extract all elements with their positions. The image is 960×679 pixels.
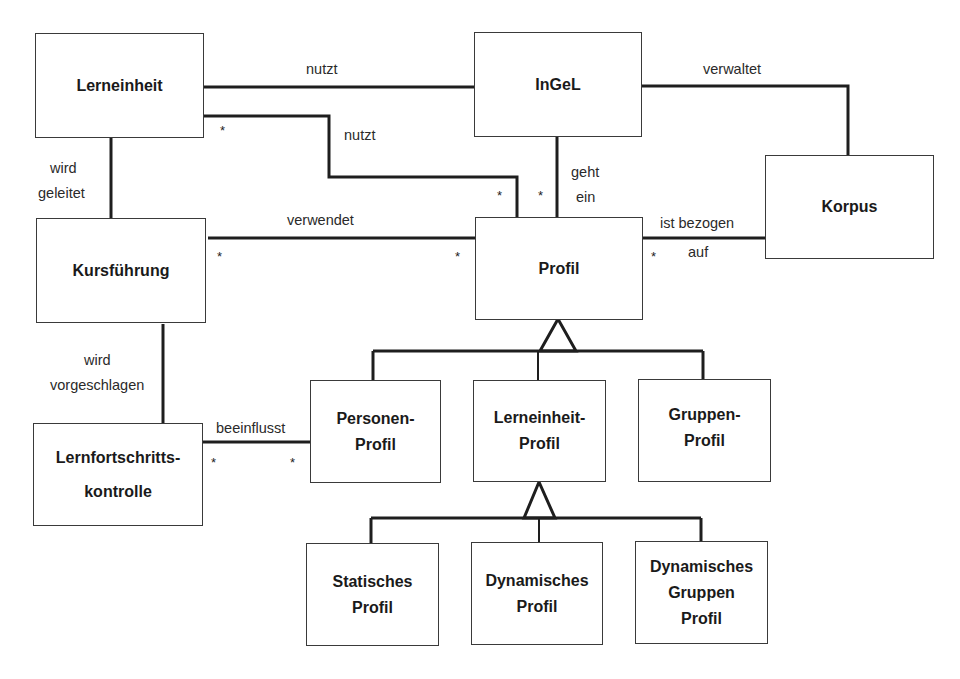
multiplicity-kursfuehrung-profil-target: * [455,250,460,263]
class-name-line: Gruppen- [669,402,741,428]
label-profil-korpus-line1: ist bezogen [660,211,734,236]
multiplicity-profil-korpus-source: * [651,250,656,263]
multiplicity-ingel-profil-target: * [538,189,543,202]
class-name: Lerneinheit [76,73,162,99]
class-name-line: Lerneinheit- [494,405,586,431]
multiplicity-lernfortschrittskontrolle-personen-profil-target: * [290,456,295,469]
label-ingel-profil-line1: geht [571,160,599,185]
label-kursfuehrung-profil: verwendet [287,208,354,233]
class-name-line: Gruppen [668,580,735,606]
multiplicity-lerneinheit-profil-target: * [497,189,502,202]
label-lernfortschrittskontrolle-personen-profil: beeinflusst [216,416,285,441]
class-korpus: Korpus [765,155,934,259]
class-name: Kursführung [73,258,170,284]
class-name-line: Profil [355,432,396,458]
class-name-line: Profil [352,595,393,621]
class-name: Profil [539,256,580,282]
class-name-line: Lernfortschritts- [56,441,180,475]
class-name-line: Personen- [336,406,414,432]
class-lernfortschrittskontrolle: Lernfortschritts- kontrolle [33,423,203,526]
label-lerneinheit-kursfuehrung-line1: wird [50,156,77,181]
generalization-triangle-profil [540,319,576,351]
class-dynamisches-profil: Dynamisches Profil [471,542,603,645]
class-name: Korpus [822,194,878,220]
multiplicity-lerneinheit-profil-source: * [220,124,225,137]
label-lerneinheit-kursfuehrung-line2: geleitet [38,181,85,206]
label-profil-korpus-line2: auf [688,240,708,265]
class-name-line: kontrolle [84,475,152,509]
class-name: InGeL [535,72,580,98]
class-kursfuehrung: Kursführung [36,218,206,323]
label-ingel-profil-line2: ein [576,185,595,210]
class-name-line: Profil [681,606,722,632]
generalization-triangle-lerneinheit-profil [524,482,555,518]
class-ingel: InGeL [474,32,642,137]
multiplicity-kursfuehrung-profil-source: * [217,250,222,263]
label-kursfuehrung-lernfortschrittskontrolle-line2: vorgeschlagen [50,373,144,398]
class-name-line: Profil [517,594,558,620]
multiplicity-lernfortschrittskontrolle-personen-profil-source: * [211,456,216,469]
class-name-line: Dynamisches [485,568,588,594]
label-ingel-korpus: verwaltet [703,57,761,82]
class-name-line: Profil [519,431,560,457]
class-personen-profil: Personen- Profil [310,380,441,483]
class-dynamisches-gruppen-profil: Dynamisches Gruppen Profil [635,541,768,644]
association-ingel-korpus [641,86,848,158]
label-lerneinheit-profil: nutzt [344,123,375,148]
label-kursfuehrung-lernfortschrittskontrolle-line1: wird [84,348,111,373]
class-gruppen-profil: Gruppen- Profil [638,379,771,482]
class-statisches-profil: Statisches Profil [306,543,439,646]
class-name-line: Profil [684,428,725,454]
class-lerneinheit-profil: Lerneinheit- Profil [473,380,606,482]
class-name-line: Dynamisches [650,554,753,580]
class-lerneinheit: Lerneinheit [35,33,204,138]
class-profil: Profil [475,217,643,320]
class-name-line: Statisches [332,569,412,595]
label-lerneinheit-ingel: nutzt [306,57,337,82]
